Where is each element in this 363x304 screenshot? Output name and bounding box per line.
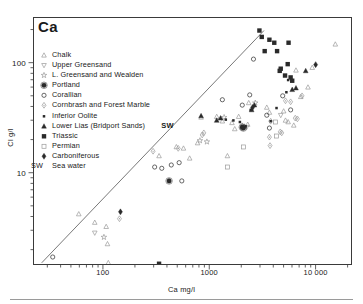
legend-sw-key: SW [31,161,43,171]
legend-item-upper-greensand[interactable]: Upper Greensand [39,60,189,70]
data-point [269,120,272,123]
data-point [333,42,338,46]
legend-item-chalk[interactable]: Chalk [39,50,189,60]
legend-label: Lower Lias (Bridport Sands) [52,121,145,131]
data-point [283,73,287,77]
data-point [101,234,107,239]
legend-marker-diamond-filled-icon [39,151,52,161]
legend-label: Carboniferous [52,151,99,161]
data-point [118,209,122,215]
data-point [92,231,97,235]
data-point [275,49,279,53]
legend-item-cornbrash-and-forest-marble[interactable]: Cornbrash and Forest Marble [39,100,189,110]
data-point [257,28,261,32]
legend-label: Inferior Oolite [52,111,97,121]
legend-item-portland[interactable]: Portland [39,80,189,90]
legend-item-triassic[interactable]: Triassic [39,131,189,141]
legend-item-inferior-oolite[interactable]: Inferior Oolite [39,111,189,121]
legend-marker-circle-open-icon [39,90,52,100]
data-point [289,99,293,105]
data-point [236,114,241,118]
y-tick-label: 100 [2,58,26,67]
chart-legend: ChalkUpper GreensandL. Greensand and Wea… [39,50,189,171]
legend-label: Chalk [52,50,71,60]
legend-label: L. Greensand and Wealden [52,70,144,80]
legend-label: Cornbrash and Forest Marble [52,100,150,110]
legend-label: Triassic [52,131,78,141]
data-point [273,120,277,124]
legend-marker-star-open-icon [39,70,52,80]
y-axis-label: Cl g/l [6,116,15,160]
legend-marker-circle-dot-filled-icon [39,80,52,90]
legend-marker-triangle-down-open-icon [39,60,52,70]
data-point [268,143,272,149]
data-point [264,105,269,109]
legend-item-sea-water: SWSea water [39,161,189,171]
data-point [278,113,283,117]
data-point [281,94,285,98]
data-point [283,98,287,104]
data-point [232,119,235,122]
data-point [225,153,230,157]
legend-item-permian[interactable]: Permian [39,141,189,151]
data-point [267,126,271,130]
x-tick-label: 10 000 [304,268,328,277]
data-point [240,103,244,107]
data-point [303,68,308,73]
data-point [157,262,161,264]
data-point [225,118,228,121]
legend-marker-square-filled-icon [39,131,52,141]
data-point [272,41,276,45]
data-point [267,38,271,42]
data-point [239,121,242,124]
data-point [306,85,311,89]
data-point [248,93,252,97]
data-point [289,108,293,112]
data-point [197,138,203,143]
data-point [166,178,173,185]
x-tick-label: 1000 [201,268,219,277]
data-point [262,49,266,53]
data-point [117,216,121,222]
data-point [294,68,299,72]
legend-marker-triangle-up-filled-icon [39,121,52,131]
data-point [105,241,110,245]
legend-item-carboniferous[interactable]: Carboniferous [39,151,189,161]
data-point [241,145,245,149]
y-tick-label: 10 [2,168,26,177]
data-point [251,57,255,61]
chart-figure: Cl g/l 100100010 000 10100 SW Ca ChalkUp… [0,0,363,304]
data-point [281,109,286,113]
data-point [265,113,269,117]
legend-label: Upper Greensand [52,60,112,70]
legend-marker-square-open-icon [39,141,52,151]
data-point [294,85,299,90]
legend-label: Permian [52,141,80,151]
data-point [267,134,271,140]
footer-divider [10,299,353,300]
legend-item-corallian[interactable]: Corallian [39,90,189,100]
legend-item-l-greensand-and-wealden[interactable]: L. Greensand and Wealden [39,70,189,80]
data-point [244,125,247,128]
data-point [291,123,296,127]
data-point [199,113,204,118]
legend-marker-triangle-up-open-icon [39,50,52,60]
x-axis-label: Ca mg/l [0,285,363,294]
legend-label: Sea water [52,161,86,171]
legend-item-lower-lias-bridport-sands[interactable]: Lower Lias (Bridport Sands) [39,121,189,131]
data-point [275,134,279,138]
data-point [104,224,109,228]
data-point [106,260,111,264]
legend-label: Corallian [52,90,82,100]
data-point [232,126,237,130]
data-point [204,139,210,144]
data-point [76,212,81,216]
x-tick-label: 100 [96,268,109,277]
data-point [92,220,97,224]
data-point [290,79,294,83]
legend-marker-square-small-filled-icon [39,111,52,121]
data-point [180,179,184,183]
data-point [285,91,288,94]
data-point [260,35,264,39]
data-point [220,98,224,102]
